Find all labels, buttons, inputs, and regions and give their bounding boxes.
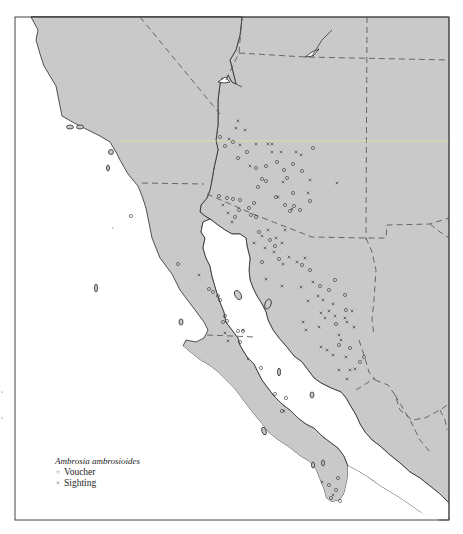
island-cedros [179, 319, 183, 325]
legend-title: Ambrosia ambrosioides [55, 456, 140, 467]
island-coastal-east [310, 392, 314, 398]
legend-item-sighting: × Sighting [55, 478, 140, 489]
legend-item-voucher: ○ Voucher [55, 467, 140, 478]
island-espiritu-santo [312, 462, 315, 468]
island-cerralvo [322, 460, 325, 466]
island-carmen [278, 368, 281, 376]
island-san-clemente [107, 165, 110, 171]
distribution-map [0, 0, 463, 534]
island-santa-rosa [77, 125, 84, 129]
sighting-cross-icon: × [55, 478, 61, 489]
legend-label-voucher: Voucher [64, 467, 95, 478]
island-santa-cruz [67, 125, 74, 129]
map-legend: Ambrosia ambrosioides ○ Voucher × Sighti… [55, 456, 140, 489]
stray-mark [112, 227, 113, 228]
island-catalina [109, 150, 114, 155]
stray-mark [1, 391, 2, 392]
stray-mark [1, 417, 2, 418]
island-guadalupe [95, 284, 98, 292]
legend-label-sighting: Sighting [64, 478, 96, 489]
voucher-circle-icon: ○ [55, 467, 61, 478]
